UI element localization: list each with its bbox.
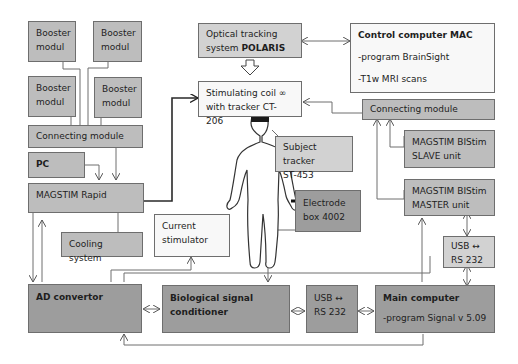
optical-tracking-box: Optical tracking system POLARIS [198,23,302,58]
main-computer-line: -program Signal v 5.09 [383,311,487,325]
booster-label: Booster [102,82,134,96]
control-computer-box: Control computer MAC -program BrainSight… [350,23,495,93]
current-stimulator-label: Current [162,219,222,233]
stimulating-coil-label: Stimulating coil ∞ [206,86,294,100]
bistim-master-label: MASTER unit [412,198,487,212]
rs232-label: RS 232 [451,253,487,267]
current-stimulator-box: Current stimulator [154,214,230,257]
subject-tracker-label: ST-453 [283,168,345,182]
booster-label: modul [36,95,68,109]
booster-module-1: Booster modul [28,21,76,62]
stimulating-coil-label: with tracker CT-206 [206,100,294,128]
electrode-box-label: box 4002 [303,210,353,224]
bistim-master-label: MAGSTIM BIStim [412,184,487,198]
usb-rs232-right-box: USB ↔ RS 232 [443,236,495,268]
pc-box: PC [28,152,85,178]
stimulating-coil-box: Stimulating coil ∞ with tracker CT-206 [198,81,302,117]
control-computer-title: Control computer MAC [358,28,487,42]
bistim-slave-label: SLAVE unit [412,149,487,163]
connecting-module-label: Connecting module [370,104,458,114]
booster-label: modul [102,96,134,110]
hollow-down-arrow-icon [241,60,259,75]
bio-conditioner-label: conditioner [170,305,282,319]
pc-label: PC [36,159,49,169]
bio-signal-conditioner-box: Biological signal conditioner [162,285,290,333]
bistim-master-box: MAGSTIM BIStim MASTER unit [404,179,495,216]
electrode-box-label: Electrode [303,196,353,210]
booster-label: modul [101,40,134,54]
usb-rs232-bottom-box: USB ↔ RS 232 [306,285,358,333]
bistim-slave-label: MAGSTIM BIStim [412,135,487,149]
booster-label: Booster [36,26,68,40]
magstim-rapid-box: MAGSTIM Rapid [28,183,144,213]
booster-module-4: Booster modul [94,77,142,118]
booster-module-3: Booster modul [28,76,76,117]
main-computer-title: Main computer [383,291,487,305]
booster-label: modul [36,40,68,54]
magstim-rapid-label: MAGSTIM Rapid [36,190,107,200]
electrode-box: Electrode box 4002 [295,190,361,232]
booster-module-2: Booster modul [93,21,142,62]
ad-convertor-label: AD convertor [36,292,103,302]
rapid-to-coil-line [144,98,198,201]
connecting-module-left: Connecting module [28,125,143,148]
rs232-label: RS 232 [314,305,350,319]
polaris-label: POLARIS [241,43,285,53]
ad-convertor-box: AD convertor [28,284,142,333]
cooling-system-box: Cooling system [61,232,143,257]
main-computer-box: Main computer -program Signal v 5.09 [375,285,495,333]
booster-label: Booster [36,81,68,95]
optical-tracking-label: Optical tracking [206,27,294,41]
current-stimulator-label: stimulator [162,233,222,247]
connecting-module-right: Connecting module [362,99,495,120]
usb-label: USB ↔ [314,291,350,305]
cooling-system-label: Cooling system [69,239,103,263]
subject-tracker-label: Subject tracker [283,140,345,168]
control-computer-line: -T1w MRI scans [358,72,487,86]
control-computer-line: -program BrainSight [358,50,487,64]
bio-conditioner-label: Biological signal [170,291,282,305]
usb-label: USB ↔ [451,239,487,253]
optical-tracking-label: system [206,43,241,53]
connecting-module-label: Connecting module [36,131,124,141]
bistim-slave-box: MAGSTIM BIStim SLAVE unit [404,130,495,168]
booster-label: Booster [101,26,134,40]
subject-tracker-box: Subject tracker ST-453 [275,136,353,172]
